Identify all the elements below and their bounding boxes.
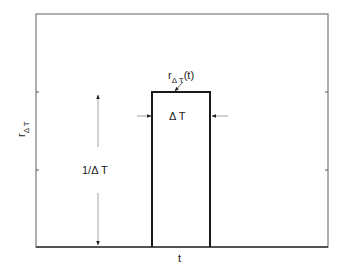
y-axis-label: rΔ T bbox=[15, 121, 31, 137]
height-label: 1/Δ T bbox=[82, 164, 108, 176]
width-label: Δ T bbox=[169, 110, 186, 122]
x-axis-label: t bbox=[178, 252, 181, 264]
plot-frame bbox=[36, 14, 328, 247]
y-ticks bbox=[36, 92, 328, 170]
curve-label: rΔ T(t) bbox=[168, 69, 194, 85]
pulse-diagram: rΔ T(t) Δ T 1/Δ T t rΔ T bbox=[0, 0, 343, 271]
svg-text:rΔ T: rΔ T bbox=[15, 121, 31, 137]
